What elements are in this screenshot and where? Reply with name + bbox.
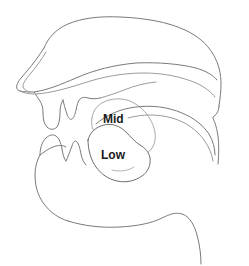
lower-teeth [66, 141, 86, 165]
nose-profile [17, 48, 44, 92]
pharyngeal-wall [213, 106, 219, 164]
lower-jaw-and-chin [35, 155, 68, 221]
upper-lip [34, 92, 63, 129]
neck-line [68, 213, 201, 264]
lower-lip [40, 135, 66, 161]
head-outline [44, 17, 221, 106]
hard-palate [34, 63, 217, 92]
vocal-tract-diagram: Mid Low [0, 0, 249, 266]
tongue-position-label-low: Low [101, 148, 126, 162]
vocal-tract-illustration: Mid Low [0, 0, 249, 266]
alveolar-ridge [100, 82, 156, 98]
soft-palate-velum [36, 73, 215, 97]
tongue-position-label-mid: Mid [103, 112, 124, 126]
upper-teeth [63, 97, 100, 119]
